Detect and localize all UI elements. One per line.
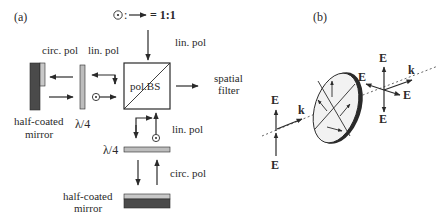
beam-splitter-label: pol.BS xyxy=(130,80,160,92)
bottom-mirror-label-line1: half-coated xyxy=(63,190,113,202)
bs-to-bottom-arm-arrow xyxy=(136,118,152,134)
right-field-arrow-right xyxy=(384,90,400,95)
bottom-waveplate-label: λ/4 xyxy=(103,143,118,157)
polarization-ratio-legend: : = 1:1 xyxy=(114,8,176,22)
left-wavevector-label: k xyxy=(298,103,305,117)
left-mirror-label-line1: half-coated xyxy=(14,115,64,127)
left-quarter-wave-plate xyxy=(80,65,85,109)
right-field-left-label: E xyxy=(358,70,366,84)
spatial-filter-label-line2: filter xyxy=(218,84,240,96)
legend-ratio: = 1:1 xyxy=(150,8,176,22)
right-wavevector-label: k xyxy=(408,63,415,77)
left-mirror-label-line2: mirror xyxy=(25,128,53,140)
bottom-quarter-wave-plate xyxy=(124,147,170,152)
dot-polarization-icon xyxy=(92,93,99,100)
bottom-mirror-label-line2: mirror xyxy=(74,202,102,214)
bottom-linear-polarization-label: lin. pol xyxy=(172,123,203,135)
dot-polarization-icon xyxy=(114,11,122,19)
right-field-arrow-left xyxy=(366,84,384,90)
left-waveplate-label: λ/4 xyxy=(75,117,90,131)
left-field-bottom-label: E xyxy=(271,158,279,172)
polarizing-beam-splitter: pol.BS xyxy=(124,63,170,109)
bottom-half-coated-mirror xyxy=(124,194,170,208)
legend-colon: : xyxy=(124,8,127,22)
spatial-filter-label-line1: spatial xyxy=(214,72,243,84)
input-polarization-label: lin. pol xyxy=(175,36,206,48)
panel-b: (b) E E k E E E E k xyxy=(262,10,438,172)
left-linear-polarization-label: lin. pol xyxy=(88,44,119,56)
left-wavevector-arrow xyxy=(277,119,302,129)
figure-canvas: (a) : = 1:1 lin. pol pol.BS spatial filt… xyxy=(0,0,446,220)
left-half-coated-mirror xyxy=(30,63,45,110)
right-field-right-label: E xyxy=(403,88,411,102)
panel-a-label: (a) xyxy=(14,10,27,24)
panel-a: (a) : = 1:1 lin. pol pol.BS spatial filt… xyxy=(14,8,243,214)
panel-b-label: (b) xyxy=(313,10,327,24)
dot-polarization-icon xyxy=(152,134,159,141)
left-field-top-label: E xyxy=(271,93,279,107)
right-field-bottom-label: E xyxy=(379,112,387,126)
left-circular-polarization-label: circ. pol xyxy=(42,44,78,56)
bottom-circular-polarization-label: circ. pol xyxy=(170,167,206,179)
bs-to-left-arm-arrow xyxy=(92,75,115,84)
right-field-top-label: E xyxy=(379,51,387,65)
